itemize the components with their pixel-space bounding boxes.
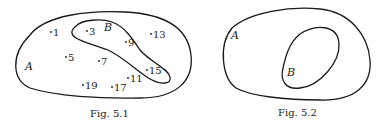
element-dot bbox=[86, 30, 88, 32]
element-dot bbox=[150, 33, 152, 35]
element-19: 19 bbox=[82, 80, 98, 91]
element-dot bbox=[146, 69, 148, 71]
element-7: 7 bbox=[98, 56, 107, 67]
element-dot bbox=[98, 60, 100, 62]
set-a-label: A bbox=[230, 29, 239, 42]
figure-5-2: A B Fig. 5.2 bbox=[223, 8, 370, 118]
element-5: 5 bbox=[65, 52, 74, 63]
venn-figures: A B 1 3 9 13 5 7 15 bbox=[0, 0, 381, 124]
element-15: 15 bbox=[146, 65, 162, 76]
element-label: 9 bbox=[128, 37, 134, 48]
element-dot bbox=[65, 56, 67, 58]
element-13: 13 bbox=[150, 29, 166, 40]
element-11: 11 bbox=[127, 73, 143, 84]
element-3: 3 bbox=[86, 26, 95, 37]
set-a-boundary bbox=[223, 8, 370, 100]
element-label: 3 bbox=[89, 26, 95, 37]
element-dot bbox=[50, 31, 52, 33]
element-label: 17 bbox=[114, 82, 127, 93]
set-b-boundary bbox=[282, 27, 339, 88]
element-17: 17 bbox=[111, 82, 127, 93]
element-label: 13 bbox=[153, 29, 166, 40]
set-b-label: B bbox=[286, 66, 295, 79]
element-dot bbox=[125, 41, 127, 43]
element-1: 1 bbox=[50, 27, 59, 38]
element-label: 5 bbox=[68, 52, 74, 63]
element-dot bbox=[111, 86, 113, 88]
figure-caption: Fig. 5.2 bbox=[278, 107, 317, 118]
element-dot bbox=[127, 77, 129, 79]
element-9: 9 bbox=[125, 37, 134, 48]
element-dot bbox=[82, 84, 84, 86]
figure-5-1: A B 1 3 9 13 5 7 15 bbox=[16, 12, 192, 119]
set-b-label: B bbox=[103, 21, 112, 34]
set-a-label: A bbox=[24, 60, 33, 73]
element-label: 1 bbox=[53, 27, 59, 38]
element-label: 15 bbox=[149, 65, 162, 76]
element-label: 7 bbox=[101, 56, 107, 67]
element-label: 11 bbox=[130, 73, 143, 84]
figure-caption: Fig. 5.1 bbox=[90, 108, 129, 119]
element-label: 19 bbox=[85, 80, 98, 91]
